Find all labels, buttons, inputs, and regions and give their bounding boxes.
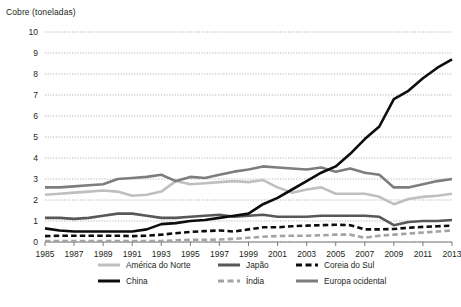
y-tick-label: 3 (33, 174, 38, 184)
y-tick-label: 10 (29, 27, 39, 37)
y-tick-label: 5 (33, 132, 38, 142)
legend-label: Japão (246, 260, 269, 270)
series-lines-group (45, 59, 452, 241)
copper-consumption-line-chart: Cobre (toneladas) 012345678910 198519871… (0, 0, 461, 307)
series-line (45, 59, 452, 231)
legend-label: América do Norte (126, 260, 191, 270)
series-line (45, 166, 452, 187)
legend-swatch-icon (296, 260, 318, 270)
legend-label: Índia (246, 276, 264, 286)
legend-swatch-icon (218, 260, 240, 270)
legend-swatch-icon (98, 260, 120, 270)
legend-item[interactable]: Coreia do Sul (296, 260, 374, 270)
legend-swatch-icon (296, 276, 318, 286)
chart-legend: América do NorteChinaJapãoÍndiaCoreia do… (0, 258, 461, 307)
legend-item[interactable]: China (98, 276, 148, 286)
y-tick-label: 2 (33, 195, 38, 205)
legend-swatch-icon (218, 276, 240, 286)
x-axis-group (45, 242, 452, 246)
gridlines-group (45, 32, 452, 242)
y-tick-label: 8 (33, 69, 38, 79)
plot-svg: 012345678910 198519871989199119931995199… (0, 0, 461, 260)
y-tick-label: 6 (33, 111, 38, 121)
y-tick-label: 0 (33, 237, 38, 247)
legend-item[interactable]: América do Norte (98, 260, 191, 270)
legend-item[interactable]: Europa ocidental (296, 276, 386, 286)
legend-label: Coreia do Sul (324, 260, 374, 270)
y-tick-label: 9 (33, 48, 38, 58)
legend-label: China (126, 276, 148, 286)
legend-swatch-icon (98, 276, 120, 286)
y-tick-label: 4 (33, 153, 38, 163)
series-line (45, 214, 452, 226)
y-tick-label: 7 (33, 90, 38, 100)
legend-label: Europa ocidental (324, 276, 386, 286)
legend-item[interactable]: Índia (218, 276, 264, 286)
legend-item[interactable]: Japão (218, 260, 269, 270)
y-tick-label: 1 (33, 216, 38, 226)
plot-area: 012345678910 198519871989199119931995199… (0, 0, 461, 260)
y-axis-tick-labels: 012345678910 (29, 27, 39, 247)
